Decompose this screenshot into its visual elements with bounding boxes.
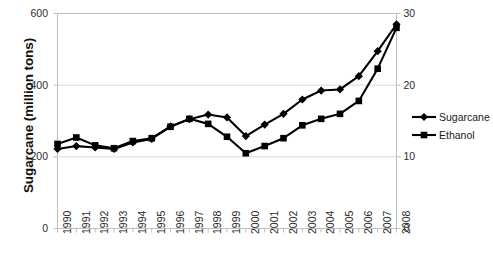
data-point-marker-square bbox=[261, 143, 268, 150]
x-tick-label: 2006 bbox=[363, 210, 373, 233]
data-point-marker-square bbox=[54, 141, 61, 148]
x-tick-label: 2004 bbox=[325, 210, 335, 233]
data-point-marker-diamond bbox=[72, 142, 80, 150]
y-tick-label-left: 200 bbox=[4, 151, 48, 161]
data-point-marker-square bbox=[186, 116, 193, 123]
data-point-marker-square bbox=[148, 135, 155, 142]
data-point-marker-square bbox=[299, 122, 306, 129]
x-tick-label: 1991 bbox=[81, 210, 91, 233]
x-tick-label: 1999 bbox=[231, 210, 241, 233]
x-tick-label: 2003 bbox=[307, 210, 317, 233]
x-tick-label: 2000 bbox=[250, 210, 260, 233]
chart-plot-area bbox=[0, 0, 493, 277]
y-tick-label-left: 600 bbox=[4, 8, 48, 18]
x-tick-label: 1990 bbox=[62, 210, 72, 233]
x-tick-label: 1992 bbox=[99, 210, 109, 233]
data-point-marker-square bbox=[92, 142, 99, 149]
data-point-marker-square bbox=[243, 150, 250, 157]
x-tick-label: 2001 bbox=[269, 210, 279, 233]
data-point-marker-square bbox=[167, 123, 174, 130]
data-point-marker-square bbox=[73, 134, 80, 141]
x-tick-label: 2008 bbox=[401, 210, 411, 233]
data-point-marker-square bbox=[393, 25, 400, 32]
y-tick-label-right: 30 bbox=[404, 8, 416, 18]
legend-label-ethanol: Ethanol bbox=[439, 129, 475, 141]
chart-container: Sugarcane (million tons) 020040060001020… bbox=[0, 0, 493, 277]
data-point-marker-square bbox=[205, 121, 212, 128]
y-tick-label-left: 400 bbox=[4, 80, 48, 90]
data-point-marker-diamond bbox=[204, 110, 212, 118]
x-tick-label: 1993 bbox=[118, 210, 128, 233]
data-point-marker-square bbox=[280, 135, 287, 142]
data-point-marker-square bbox=[374, 65, 381, 72]
x-tick-label: 1998 bbox=[212, 210, 222, 233]
data-point-marker-square bbox=[224, 133, 231, 140]
x-tick-label: 1995 bbox=[156, 210, 166, 233]
data-point-marker-square bbox=[356, 98, 363, 105]
data-point-marker-square bbox=[337, 111, 344, 118]
legend-label-sugarcane: Sugarcane bbox=[439, 111, 490, 123]
x-tick-label: 2005 bbox=[344, 210, 354, 233]
data-point-marker-square bbox=[318, 116, 325, 123]
x-tick-label: 1997 bbox=[194, 210, 204, 233]
series-line-sugarcane bbox=[58, 24, 397, 149]
data-point-marker-diamond bbox=[317, 86, 325, 94]
x-tick-label: 2002 bbox=[288, 210, 298, 233]
data-point-marker-square bbox=[130, 138, 137, 145]
x-tick-label: 1994 bbox=[137, 210, 147, 233]
x-tick-label: 1996 bbox=[175, 210, 185, 233]
y-tick-label-right: 10 bbox=[404, 151, 416, 161]
data-point-marker-square bbox=[111, 145, 118, 152]
x-tick-label: 2007 bbox=[382, 210, 392, 233]
y-tick-label-right: 20 bbox=[404, 80, 416, 90]
y-tick-label-left: 0 bbox=[4, 223, 48, 233]
